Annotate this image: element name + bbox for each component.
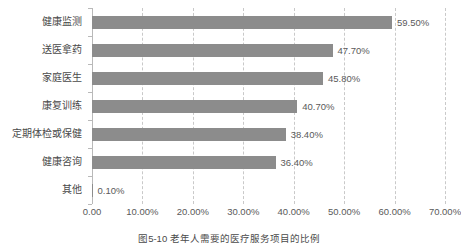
bar-value-label: 40.70% xyxy=(302,100,334,113)
category-label: 康复训练 xyxy=(42,92,82,120)
x-tick-label: 40.00% xyxy=(278,206,310,217)
bar-value-label: 47.70% xyxy=(338,44,370,57)
bar xyxy=(92,156,276,169)
x-tick-label: 70.00% xyxy=(429,206,461,217)
bar xyxy=(92,16,392,29)
x-tick-label: 20.00% xyxy=(177,206,209,217)
category-label: 家庭医生 xyxy=(42,64,82,92)
bar-row: 45.80% xyxy=(92,64,445,92)
bar-value-label: 38.40% xyxy=(291,128,323,141)
category-axis-labels: 健康监测送医拿药家庭医生康复训练定期体检或保健健康咨询其他 xyxy=(0,8,88,204)
category-label: 送医拿药 xyxy=(42,36,82,64)
bar xyxy=(92,128,286,141)
x-tick-label: 10.00% xyxy=(126,206,158,217)
x-axis: 0.0010.00%20.00%30.00%40.00%50.00%60.00%… xyxy=(92,204,445,220)
bar xyxy=(92,100,297,113)
figure-caption: 图5-10 老年人需要的医疗服务项目的比例 xyxy=(0,231,458,245)
bar xyxy=(92,184,93,197)
category-label: 健康监测 xyxy=(42,8,82,36)
x-tick-label: 50.00% xyxy=(328,206,360,217)
y-tick-mark xyxy=(88,64,92,65)
bar-value-label: 0.10% xyxy=(98,184,125,197)
category-label: 健康咨询 xyxy=(42,148,82,176)
bar xyxy=(92,44,333,57)
category-label: 定期体检或保健 xyxy=(12,120,82,148)
x-tick-label: 0.00 xyxy=(83,206,102,217)
y-tick-mark xyxy=(88,148,92,149)
y-tick-mark xyxy=(88,120,92,121)
bar xyxy=(92,72,323,85)
y-tick-mark xyxy=(88,8,92,9)
x-tick-label: 30.00% xyxy=(227,206,259,217)
category-label: 其他 xyxy=(62,176,82,204)
y-tick-mark xyxy=(88,176,92,177)
bar-row: 38.40% xyxy=(92,120,445,148)
y-tick-mark xyxy=(88,36,92,37)
gridline xyxy=(445,8,446,204)
bar-value-label: 36.40% xyxy=(281,156,313,169)
bar-row: 36.40% xyxy=(92,148,445,176)
bar-row: 47.70% xyxy=(92,36,445,64)
plot-area: 59.50%47.70%45.80%40.70%38.40%36.40%0.10… xyxy=(92,8,445,204)
y-tick-mark xyxy=(88,92,92,93)
bar-value-label: 45.80% xyxy=(328,72,360,85)
bar-value-label: 59.50% xyxy=(397,16,429,29)
bar-row: 0.10% xyxy=(92,176,445,204)
bar-row: 40.70% xyxy=(92,92,445,120)
bar-row: 59.50% xyxy=(92,8,445,36)
x-tick-label: 60.00% xyxy=(378,206,410,217)
